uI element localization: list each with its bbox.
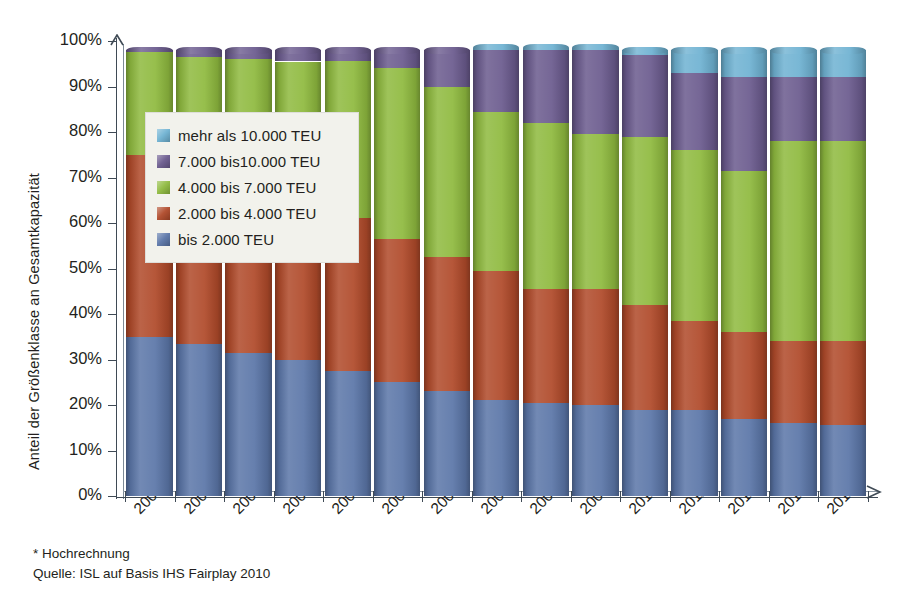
- bar-segment-shading: [770, 341, 816, 423]
- bar-2009: [572, 48, 618, 496]
- legend-item-label: 7.000 bis10.000 TEU: [178, 153, 321, 170]
- bar-segment: [424, 257, 470, 391]
- bar-segment: [473, 50, 519, 111]
- bar-segment-shading: [325, 371, 371, 496]
- stacked-bar-chart: Anteil der Größenklasse an Gesamtkapazit…: [0, 0, 899, 608]
- y-axis-tick: [108, 41, 117, 42]
- bar-2008: [523, 48, 569, 496]
- legend-swatch-icon: [157, 129, 170, 142]
- bar-segment: [424, 87, 470, 258]
- y-axis-tick-label: 100%: [44, 30, 102, 49]
- plot-area: [118, 41, 872, 496]
- bar-segment: [572, 50, 618, 134]
- y-axis-tick: [108, 132, 117, 133]
- legend-item-label: 2.000 bis 4.000 TEU: [178, 205, 316, 222]
- bar-segment-shading: [622, 137, 668, 305]
- bar-top-cap: [176, 47, 222, 54]
- bar-segment-shading: [424, 257, 470, 391]
- y-axis-tick: [108, 269, 117, 270]
- bar-segment-shading: [374, 239, 420, 382]
- legend-item[interactable]: mehr als 10.000 TEU: [157, 122, 348, 148]
- bar-segment: [770, 141, 816, 341]
- legend-item[interactable]: 2.000 bis 4.000 TEU: [157, 200, 348, 226]
- bar-segment-shading: [721, 50, 767, 77]
- bar-segment-shading: [374, 68, 420, 239]
- bar-segment-shading: [473, 271, 519, 401]
- y-axis-tick-label: 80%: [44, 121, 102, 140]
- bar-2007: [473, 48, 519, 496]
- bar-segment-shading: [424, 87, 470, 258]
- bar-segment: [523, 403, 569, 496]
- bar-2013-est: [770, 50, 816, 496]
- legend-swatch-icon: [157, 181, 170, 194]
- bar-segment: [176, 50, 222, 57]
- bar-top-cap: [275, 47, 321, 54]
- bar-segment: [671, 73, 717, 150]
- bar-segment-shading: [770, 141, 816, 341]
- bar-segment-shading: [820, 77, 866, 141]
- bar-segment-shading: [820, 425, 866, 496]
- bar-2012-est: [721, 50, 767, 496]
- bar-segment-shading: [572, 289, 618, 405]
- bar-segment: [721, 171, 767, 333]
- bar-top-cap: [721, 47, 767, 54]
- bar-segment-shading: [473, 50, 519, 111]
- bar-segment: [820, 50, 866, 77]
- legend-swatch-icon: [157, 155, 170, 168]
- bar-segment: [523, 123, 569, 289]
- bar-2006: [424, 50, 470, 496]
- bar-segment: [374, 382, 420, 496]
- bar-segment: [721, 419, 767, 496]
- bar-segment: [473, 271, 519, 401]
- bar-segment: [770, 341, 816, 423]
- bar-segment: [671, 50, 717, 73]
- footnote-estimate: * Hochrechnung: [33, 544, 270, 564]
- y-axis-tick-label: 50%: [44, 258, 102, 277]
- bar-segment-shading: [671, 410, 717, 496]
- bar-segment: [671, 321, 717, 410]
- bar-segment-shading: [424, 50, 470, 86]
- bar-segment: [374, 68, 420, 239]
- bar-segment: [325, 371, 371, 496]
- legend-item[interactable]: 7.000 bis10.000 TEU: [157, 148, 348, 174]
- bar-segment-shading: [770, 423, 816, 496]
- bar-segment: [622, 410, 668, 496]
- bar-segment: [721, 50, 767, 77]
- bar-segment-shading: [671, 321, 717, 410]
- bar-segment-shading: [770, 50, 816, 77]
- bar-2010: [622, 50, 668, 496]
- y-axis-tick-label: 30%: [44, 349, 102, 368]
- bar-segment: [275, 360, 321, 497]
- legend-item[interactable]: bis 2.000 TEU: [157, 226, 348, 252]
- bar-segment: [225, 50, 271, 59]
- bar-top-cap: [622, 47, 668, 54]
- bar-top-cap: [770, 47, 816, 54]
- footnote-source: Quelle: ISL auf Basis IHS Fairplay 2010: [33, 564, 270, 584]
- y-axis-tick: [108, 223, 117, 224]
- bar-top-cap: [225, 47, 271, 54]
- bar-segment-shading: [473, 400, 519, 496]
- legend-swatch-icon: [157, 233, 170, 246]
- bar-segment-shading: [622, 55, 668, 137]
- bar-segment-shading: [671, 150, 717, 321]
- y-axis-tick-label: 20%: [44, 394, 102, 413]
- bar-segment-shading: [523, 403, 569, 496]
- bar-segment-shading: [770, 77, 816, 141]
- bar-segment-shading: [622, 410, 668, 496]
- bar-segment-shading: [671, 73, 717, 150]
- y-axis-tick: [108, 314, 117, 315]
- bar-segment-shading: [820, 50, 866, 77]
- y-axis-tick: [108, 451, 117, 452]
- y-axis-tick-label: 40%: [44, 303, 102, 322]
- bar-segment-shading: [721, 171, 767, 333]
- bar-segment: [424, 391, 470, 496]
- bar-2011-est: [671, 50, 717, 496]
- bar-segment-shading: [721, 419, 767, 496]
- legend: mehr als 10.000 TEU7.000 bis10.000 TEU4.…: [145, 112, 359, 263]
- y-axis-tick: [108, 360, 117, 361]
- legend-item[interactable]: 4.000 bis 7.000 TEU: [157, 174, 348, 200]
- bar-segment: [572, 289, 618, 405]
- bar-segment: [424, 50, 470, 86]
- bar-segment: [572, 134, 618, 289]
- footnotes: * Hochrechnung Quelle: ISL auf Basis IHS…: [33, 544, 270, 584]
